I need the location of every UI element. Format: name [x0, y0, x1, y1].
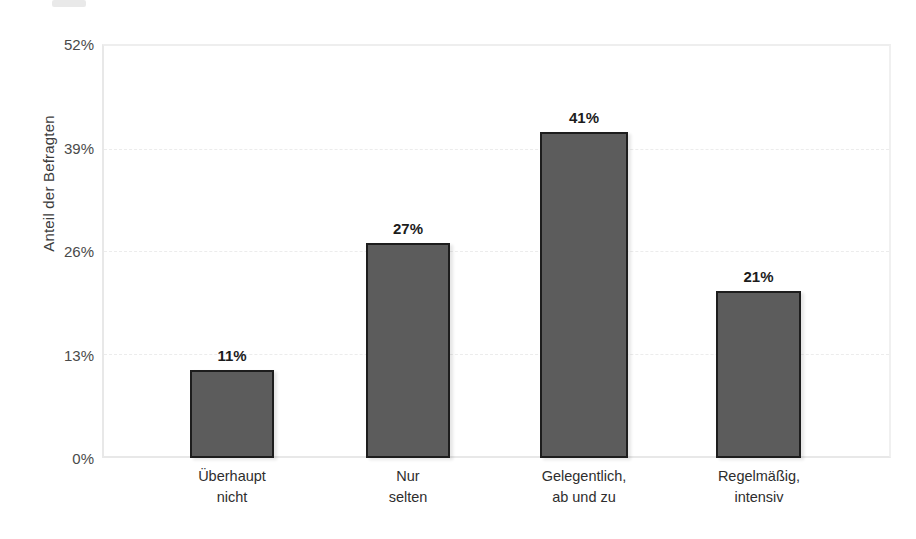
x-axis-labels: Überhaupt nicht Nur selten Gelegentlich,… [102, 466, 891, 526]
x-tick-line-1: Nur [318, 466, 498, 487]
y-axis-ticks: 52% 39% 26% 13% 0% [16, 44, 94, 458]
x-tick-line-2: selten [318, 487, 498, 508]
x-tick-line-2: ab und zu [494, 487, 674, 508]
x-tick-label-0: Überhaupt nicht [142, 466, 322, 508]
bar-chart: statista Anteil der Befragten 52% 39% 26… [0, 0, 916, 539]
bar-slot-1: 27% [366, 44, 450, 458]
bar-rect[interactable] [366, 243, 450, 458]
x-tick-line-2: nicht [142, 487, 322, 508]
bar-rect[interactable] [540, 132, 628, 458]
y-tick-label-0: 0% [22, 450, 94, 467]
y-tick-label-26: 26% [22, 243, 94, 260]
bar-slot-3: 21% [716, 44, 801, 458]
bar-slot-2: 41% [540, 44, 628, 458]
bar-rect[interactable] [716, 291, 801, 458]
x-tick-line-1: Überhaupt [142, 466, 322, 487]
x-tick-line-2: intensiv [669, 487, 849, 508]
x-tick-line-1: Regelmäßig, [669, 466, 849, 487]
y-tick-label-52: 52% [22, 36, 94, 53]
x-tick-label-2: Gelegentlich, ab und zu [494, 466, 674, 508]
y-tick-label-39: 39% [22, 139, 94, 156]
bar-value-label: 11% [162, 347, 302, 364]
x-tick-label-3: Regelmäßig, intensiv [669, 466, 849, 508]
bar-value-label: 21% [688, 268, 829, 285]
x-tick-label-1: Nur selten [318, 466, 498, 508]
scan-artifact [52, 0, 86, 7]
bar-value-label: 27% [338, 220, 478, 237]
x-tick-line-1: Gelegentlich, [494, 466, 674, 487]
y-tick-label-13: 13% [22, 346, 94, 363]
bar-value-label: 41% [512, 109, 656, 126]
bars-layer: 11% 27% 41% 21% [102, 44, 891, 458]
bar-rect[interactable] [190, 370, 274, 458]
bar-slot-0: 11% [190, 44, 274, 458]
